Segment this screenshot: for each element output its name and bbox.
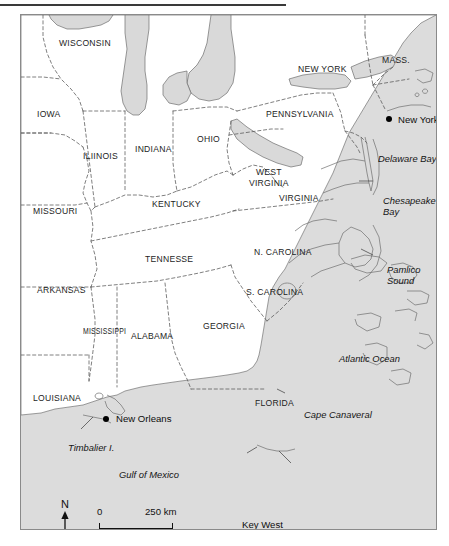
scale-label-max: 250 km [145,506,176,517]
north-arrow: N [57,497,73,530]
map-frame: WISCONSIN IOWA ILIINOIS INDIANA OHIO MIS… [20,14,437,530]
lake-michigan [121,15,149,115]
map-figure: WISCONSIN IOWA ILIINOIS INDIANA OHIO MIS… [0,0,449,546]
top-rule-divider [0,4,286,6]
city-marker-new-york [386,116,392,122]
scale-bar-line [99,523,173,529]
scale-label-zero: 0 [97,506,102,517]
north-arrow-label: N [61,498,69,510]
scale-bar [99,520,173,529]
city-marker-new-orleans [103,416,109,422]
map-geometry [21,15,436,529]
